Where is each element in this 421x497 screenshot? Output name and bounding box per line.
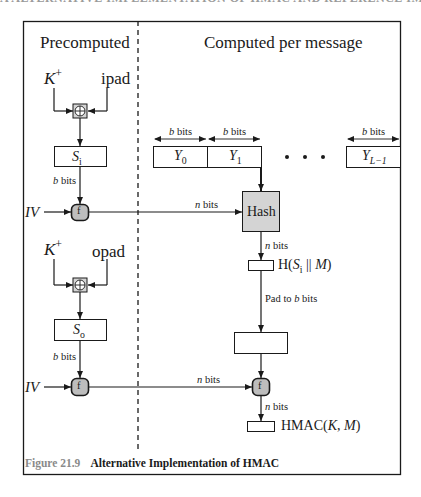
b-bits-so-label: b bits — [53, 352, 76, 363]
figure-title: Alternative Implementation of HMAC — [90, 457, 279, 469]
f-inner-label: f — [77, 206, 81, 217]
pad-to-b-bits-label: Pad to b bits — [265, 294, 317, 305]
f-outer-label: f — [258, 381, 262, 392]
inner-hash-box — [249, 261, 274, 271]
figure-frame — [24, 22, 401, 475]
f-outer-pre-label: f — [77, 381, 81, 392]
block-y0-width-label: b bits — [169, 127, 192, 138]
n-bits-hash-label: n bits — [195, 200, 218, 211]
figure-caption: Figure 21.9Alternative Implementation of… — [25, 457, 279, 469]
n-bits-inner-hash-label: n bits — [265, 241, 288, 252]
ipad-label: ipad — [101, 70, 130, 87]
xor-outer-icon — [73, 278, 87, 292]
inner-hash-label: H(Si || M) — [278, 258, 331, 272]
figure-number: Figure 21.9 — [25, 457, 80, 469]
iv-top-label: IV — [25, 205, 39, 220]
block-yl1-width-label: b bits — [362, 127, 385, 138]
hmac-output-label: HMAC(K, M) — [281, 419, 360, 433]
n-bits-hmac-label: n bits — [265, 402, 288, 413]
n-bits-outer-label: n bits — [197, 375, 220, 386]
block-y1-width-label: b bits — [223, 127, 246, 138]
b-bits-si-label: b bits — [53, 176, 76, 187]
iv-bottom-label: IV — [25, 380, 39, 395]
so-label: So — [73, 323, 85, 337]
opad-label: opad — [92, 243, 125, 260]
padded-box — [235, 333, 288, 354]
xor-inner-icon — [73, 104, 87, 118]
key-inner-label: K+ — [44, 70, 62, 87]
block-yl1-label: YL−1 — [362, 149, 387, 163]
hash-label: Hash — [247, 205, 276, 219]
block-y0-label: Y0 — [174, 149, 187, 163]
key-outer-label: K+ — [44, 241, 62, 258]
header-computed-per-message: Computed per message — [204, 34, 363, 51]
hmac-box — [248, 422, 275, 432]
si-label: Si — [72, 150, 82, 164]
header-precomputed: Precomputed — [40, 34, 130, 51]
block-y1-label: Y1 — [229, 149, 242, 163]
